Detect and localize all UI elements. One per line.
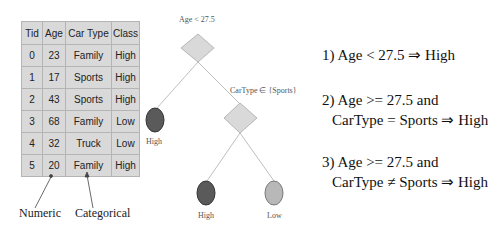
rule-3-line-2: CarType ≠ Sports ⇒ High xyxy=(332,173,488,191)
rule-2-line-1: 2) Age >= 27.5 and xyxy=(322,91,438,109)
tree-edges xyxy=(157,62,274,181)
cartype-condition-label: CarType ∈ {Sports} xyxy=(230,86,297,95)
root-decision-node xyxy=(181,34,214,62)
leaf-high-mid-label: High xyxy=(198,211,214,220)
root-condition-label: Age < 27.5 xyxy=(179,15,215,24)
leaf-high-left xyxy=(146,108,164,132)
cartype-decision-node xyxy=(224,103,257,133)
leaf-high-mid xyxy=(197,181,215,205)
rule-3-line-1: 3) Age >= 27.5 and xyxy=(322,153,438,171)
leaf-low-right xyxy=(265,181,283,205)
leaf-high-left-label: High xyxy=(146,137,162,146)
categorical-arrow xyxy=(85,172,93,208)
leaf-low-right-label: Low xyxy=(267,211,282,220)
numeric-label: Numeric xyxy=(19,206,61,221)
rule-1: 1) Age < 27.5 ⇒ High xyxy=(322,46,455,64)
rule-2-line-2: CarType = Sports ⇒ High xyxy=(332,111,488,129)
numeric-arrow xyxy=(35,175,53,209)
categorical-label: Categorical xyxy=(75,206,130,221)
